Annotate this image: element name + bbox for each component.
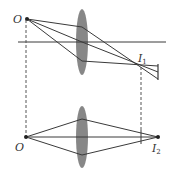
- top-ray-upper: [27, 19, 158, 79]
- bottom-ray-upper: [26, 119, 158, 137]
- bottom-image-label: I2: [151, 142, 161, 156]
- top-image-label: I1: [137, 52, 147, 66]
- top-diagram: O I1: [13, 9, 166, 80]
- top-object-label: O: [13, 13, 22, 26]
- bottom-image-point: [156, 135, 160, 139]
- bottom-object-label: O: [15, 141, 24, 154]
- bottom-diagram: O I2: [15, 106, 161, 168]
- ray-diagram: O I1 O I2: [0, 0, 174, 174]
- bottom-ray-lower: [26, 137, 158, 155]
- bottom-object-point: [24, 135, 28, 139]
